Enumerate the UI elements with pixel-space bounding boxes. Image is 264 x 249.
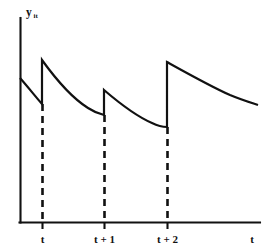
- sawtooth-decay-chart: y it t t + 1 t + 2 t: [0, 0, 264, 249]
- x-tick-label-t-plus-1: t + 1: [94, 233, 115, 245]
- chart-figure: y it t t + 1 t + 2 t: [0, 0, 264, 249]
- chart-background: [0, 0, 264, 249]
- x-tick-label-t: t: [41, 233, 45, 245]
- x-axis-end-label: t: [250, 233, 254, 245]
- y-axis-label-subscript: it: [34, 12, 39, 20]
- x-tick-label-t-plus-2: t + 2: [157, 233, 178, 245]
- y-axis-label: y: [26, 6, 32, 19]
